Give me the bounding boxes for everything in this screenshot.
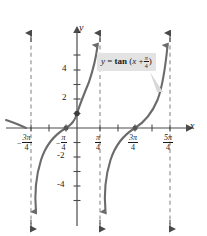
x-tick-pi-4-numerator: π [95,134,101,143]
x-axis-label: x [190,120,194,131]
x-tick-3pi-4-numerator: 3π [128,134,138,143]
x-tick-pi-4-denominator: 4 [95,143,101,152]
curve-branch-partial-left [6,120,26,128]
tangent-graph-figure: x y 4 2 -2 -4 − 3π 4 − π 4 π 4 3π 4 5π 4 [0,0,207,236]
x-tick-label-pi-over-4: π 4 [95,134,101,152]
x-tick-minus-3pi-4-denominator: 4 [22,143,32,152]
y-axis-label: y [79,22,83,33]
point-3pi-over-4-zero [133,126,138,131]
x-tick-minus-pi-4-numerator: π [61,134,67,143]
x-tick-label-5pi-over-4: 5π 4 [163,134,173,152]
y-tick-label-minus-4: -4 [57,179,65,189]
graph-canvas [0,0,207,236]
x-tick-label-minus-3pi-over-4: − 3π 4 [17,134,32,152]
point-minus-pi-over-4-zero [64,126,69,131]
y-tick-label-2: 2 [62,92,67,102]
x-tick-3pi-4-denominator: 4 [128,143,138,152]
point-zero-one [74,111,79,116]
callout-y: y [101,56,105,66]
x-tick-5pi-4-numerator: 5π [163,134,173,143]
equation-callout: y = tan (x + π 4 ) [97,53,156,71]
x-tick-label-minus-pi-over-4: − π 4 [56,134,67,152]
callout-close-paren: ) [149,56,152,66]
x-tick-minus-3pi-4-numerator: 3π [22,134,32,143]
y-tick-label-4: 4 [62,63,67,73]
callout-variable: x [132,56,136,66]
x-tick-minus-pi-4-denominator: 4 [61,143,67,152]
x-tick-label-3pi-over-4: 3π 4 [128,134,138,152]
callout-equals: = [107,56,112,66]
callout-function-name: tan [115,56,128,66]
x-tick-5pi-4-denominator: 4 [163,143,173,152]
